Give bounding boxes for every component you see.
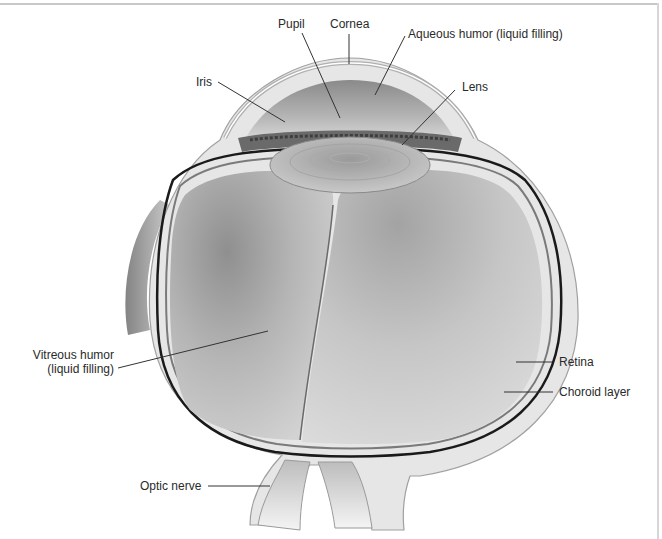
- label-optic-nerve: Optic nerve: [140, 479, 201, 493]
- lens: [270, 137, 430, 193]
- vitreous-body-right: [302, 170, 542, 444]
- label-choroid-layer: Choroid layer: [559, 385, 630, 399]
- label-cornea: Cornea: [330, 17, 369, 31]
- label-lens: Lens: [462, 80, 488, 94]
- eye-illustration: [0, 0, 662, 539]
- label-pupil: Pupil: [278, 17, 305, 31]
- label-aqueous-humor: Aqueous humor (liquid filling): [408, 27, 563, 41]
- label-retina: Retina: [559, 355, 594, 369]
- label-iris: Iris: [196, 75, 212, 89]
- label-vitreous-humor: Vitreous humor (liquid filling): [14, 348, 114, 376]
- diagram-frame: Pupil Cornea Aqueous humor (liquid filli…: [0, 0, 662, 539]
- label-vitreous-humor-line2: (liquid filling): [14, 362, 114, 376]
- label-vitreous-humor-line1: Vitreous humor: [14, 348, 114, 362]
